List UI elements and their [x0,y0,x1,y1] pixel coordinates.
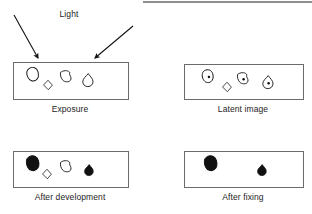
panel-after-development [14,152,129,188]
grain-teardrop-speck [263,76,273,89]
panel-after-fixing [185,152,304,188]
grain-wedge-speck [237,73,248,84]
grain-wedge-outline [60,161,71,172]
grain-diamond-outline [223,82,232,92]
panel-exposure [14,63,129,100]
grain-wedge-outline [60,71,71,82]
grain-blob-speck [201,68,216,84]
grain-outline [85,165,94,176]
grain-outline [60,71,71,82]
grain-blob-fixed [202,154,219,172]
grain-outline [201,68,216,84]
grain-outline [258,165,267,176]
grain-outline [223,82,232,92]
panel-label-after-fixing: After fixing [222,192,263,202]
grain-outline [44,80,53,90]
grain-outline [237,73,248,84]
light-arrow-right [95,26,133,58]
grain-outline [83,74,93,87]
latent-speck-dot [207,75,210,78]
grain-blob-developed [24,154,41,172]
grain-outline [24,154,41,172]
panel-frame-after-fixing [185,152,304,188]
grain-diamond-outline [44,80,53,90]
grain-outline [43,169,52,179]
latent-speck-dot [267,82,270,85]
grain-diamond-outline [43,169,52,179]
grain-outline [60,161,71,172]
panel-label-exposure: Exposure [52,104,89,114]
light-arrow-left [14,15,38,58]
grain-teardrop-outline [83,74,93,87]
panel-frame-latent-image [185,65,304,100]
grain-blob-outline [25,66,40,83]
grain-outline [263,76,273,89]
latent-speck-dot [242,78,245,81]
panel-latent-image [185,65,304,100]
panel-label-latent-image: Latent image [218,104,268,114]
photographic-process-diagram: ExposureLatent imageAfter developmentAft… [0,0,312,214]
grain-teardrop-developed [85,165,94,176]
panel-label-after-development: After development [35,192,106,202]
grain-outline [202,154,219,172]
grain-teardrop-fixed [258,165,267,176]
grain-outline [25,66,40,83]
light-label: Light [60,9,79,19]
